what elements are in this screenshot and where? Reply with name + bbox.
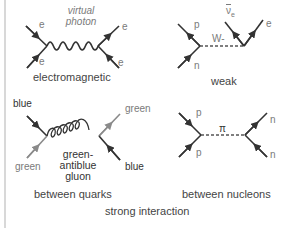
gluon-label-line3: gluon [54,171,102,182]
em-top-right-particle: e [122,22,128,32]
gluon-label: green- antiblue gluon [54,149,102,182]
between-quarks-caption: between quarks [34,188,112,200]
antineutrino-label: νe [226,6,235,20]
quark-bottom-left-color: green [15,162,41,172]
electromagnetic-caption: electromagnetic [33,71,111,83]
em-top-left-particle: e [39,20,45,30]
virtual-photon-label-line2: photon [58,16,104,27]
weak-bottom-left-particle: n [194,61,200,71]
virtual-photon-wavy-line [47,42,98,50]
virtual-photon-label-line1: virtual [58,5,104,16]
nucleon-bottom-right-particle: n [270,150,276,160]
em-bottom-right-particle: e [118,58,124,68]
weak-caption: weak [211,75,237,87]
gluon-coiled-line [47,119,89,137]
w-boson-label: W- [212,34,225,44]
nucleon-bottom-left-particle: p [196,148,202,158]
pion-label: π [219,124,226,134]
weak-top-right-particle: e [266,19,272,29]
weak-top-left-particle: p [194,20,200,30]
antineutrino-subscript: e [231,11,235,18]
quark-top-right-color: green [125,104,151,114]
em-bottom-left-particle: e [39,57,45,67]
virtual-photon-label: virtual photon [58,5,104,27]
weak-diagram [178,20,263,68]
quark-bottom-right-color: blue [125,162,144,172]
nucleon-top-left-particle: p [196,108,202,118]
between-nucleons-caption: between nucleons [182,188,271,200]
strong-interaction-caption: strong interaction [105,205,189,217]
nucleon-top-right-particle: n [270,115,276,125]
quark-top-left-color: blue [13,99,32,109]
nucleon-pion-diagram [179,113,267,157]
